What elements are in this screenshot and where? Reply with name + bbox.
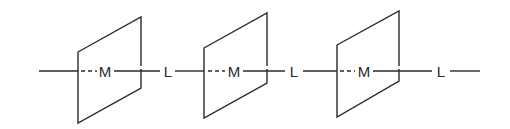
- plane-axis-diagram: M L M L M L: [0, 0, 510, 129]
- label-l-1: L: [164, 63, 172, 80]
- pierce-gap-1: [140, 66, 143, 69]
- label-m-3: M: [358, 63, 371, 80]
- pierce-gap-2: [266, 66, 269, 69]
- label-m-1: M: [99, 63, 112, 80]
- label-l-3: L: [437, 63, 445, 80]
- label-l-2: L: [290, 63, 298, 80]
- label-m-2: M: [228, 63, 241, 80]
- diagram-canvas: M L M L M L: [0, 0, 510, 129]
- pierce-gap-3: [398, 66, 401, 69]
